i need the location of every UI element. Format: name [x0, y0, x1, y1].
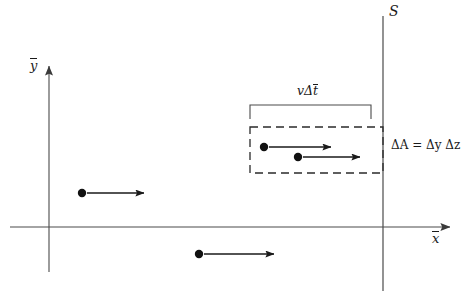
x-axis-label: x: [432, 232, 439, 245]
drift-distance-label: vΔt: [297, 85, 318, 98]
particle-left: [78, 189, 86, 197]
physics-diagram: y x S vΔt ΔA = Δy Δz: [0, 0, 465, 295]
drift-distance-bracket: [250, 105, 371, 119]
area-element-label: ΔA = Δy Δz: [391, 139, 460, 151]
particle-below-axis: [195, 250, 203, 258]
surface-label: S: [389, 4, 399, 18]
y-axis-label: y: [30, 59, 37, 72]
particle-in-box-upper: [260, 143, 268, 151]
x-axis-label-text: x: [432, 232, 439, 245]
surface-label-text: S: [389, 3, 399, 19]
particle-in-box-lower: [294, 153, 302, 161]
drift-time-symbol: t: [313, 85, 318, 98]
dashed-volume-box: [250, 127, 383, 173]
drift-velocity-symbol: v: [297, 83, 304, 98]
area-delta-z: Δz: [445, 138, 460, 152]
drift-delta-symbol: Δ: [304, 83, 313, 98]
area-delta-y: Δy: [426, 138, 441, 152]
area-equals-sign: =: [412, 138, 422, 152]
y-axis-label-text: y: [30, 59, 37, 72]
area-delta-a: ΔA: [391, 138, 408, 152]
